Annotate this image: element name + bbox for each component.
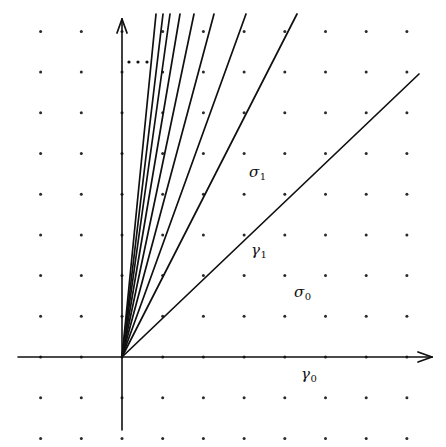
- ray-ellipsis: [127, 60, 148, 63]
- lattice-dot: [202, 396, 205, 399]
- label-sigma-0: σ0: [294, 285, 311, 300]
- lattice-dot: [324, 71, 327, 74]
- ray-2: [122, 14, 163, 357]
- ray-group: [122, 14, 419, 357]
- lattice-dot: [202, 315, 205, 318]
- lattice-dot: [283, 111, 286, 114]
- lattice-dot: [39, 111, 42, 114]
- lattice-dot: [243, 233, 246, 236]
- lattice-dot: [243, 437, 246, 440]
- lattice-dot: [405, 315, 408, 318]
- lattice-dot: [324, 396, 327, 399]
- ray-gamma1: [122, 74, 419, 357]
- lattice-dot: [80, 30, 83, 33]
- axis-group: [18, 19, 432, 430]
- lattice-dot: [365, 437, 368, 440]
- lattice-dot: [39, 152, 42, 155]
- lattice-dot: [324, 437, 327, 440]
- lattice-dot: [283, 193, 286, 196]
- lattice-dot: [283, 274, 286, 277]
- lattice-dot: [365, 30, 368, 33]
- label-base-sigma-0: σ: [294, 283, 304, 301]
- lattice-dot: [202, 152, 205, 155]
- fan-diagram-figure: σ1 γ1 σ0 γ0: [0, 0, 446, 447]
- lattice-dot: [80, 437, 83, 440]
- lattice-dot: [39, 193, 42, 196]
- lattice-dot: [405, 193, 408, 196]
- lattice-dot: [243, 315, 246, 318]
- lattice-dot: [80, 233, 83, 236]
- lattice-dot: [202, 274, 205, 277]
- label-base-gamma-1: γ: [251, 241, 260, 259]
- label-subscript-gamma-1: 1: [260, 249, 266, 260]
- lattice-dot: [405, 396, 408, 399]
- ellipsis-dot: [127, 60, 130, 63]
- lattice-dot: [202, 233, 205, 236]
- lattice-dot: [365, 315, 368, 318]
- lattice-dot: [80, 152, 83, 155]
- lattice-dot: [243, 193, 246, 196]
- lattice-dot: [243, 71, 246, 74]
- lattice-dot: [39, 315, 42, 318]
- lattice-dot: [324, 274, 327, 277]
- lattice-dot: [405, 111, 408, 114]
- lattice-dot: [405, 233, 408, 236]
- lattice-dot: [283, 437, 286, 440]
- label-gamma-0: γ0: [301, 367, 316, 382]
- lattice-dot: [161, 233, 164, 236]
- lattice-dot: [80, 111, 83, 114]
- lattice-dot: [39, 233, 42, 236]
- lattice-dot: [405, 437, 408, 440]
- label-gamma-1: γ1: [251, 243, 266, 258]
- lattice-dot: [39, 274, 42, 277]
- lattice-dot: [243, 274, 246, 277]
- lattice-dot: [39, 71, 42, 74]
- lattice-dot: [161, 396, 164, 399]
- lattice-dot: [243, 152, 246, 155]
- lattice-dot: [283, 233, 286, 236]
- ray-8: [122, 14, 297, 357]
- lattice-dot: [39, 396, 42, 399]
- lattice-dot: [283, 315, 286, 318]
- fan-diagram-canvas: [0, 0, 446, 447]
- lattice-dot: [283, 71, 286, 74]
- lattice-dot: [283, 152, 286, 155]
- label-subscript-sigma-1: 1: [260, 171, 266, 182]
- lattice-dot: [243, 396, 246, 399]
- lattice-dot: [39, 30, 42, 33]
- ellipsis-dot: [136, 60, 139, 63]
- lattice-dot: [121, 437, 124, 440]
- lattice-dot: [324, 152, 327, 155]
- ray-6: [122, 14, 214, 357]
- label-base-gamma-0: γ: [301, 365, 310, 383]
- lattice-dot: [365, 111, 368, 114]
- lattice-dot: [80, 396, 83, 399]
- lattice-dot: [161, 193, 164, 196]
- lattice-dot: [324, 30, 327, 33]
- lattice-dot: [283, 396, 286, 399]
- lattice-dot: [365, 396, 368, 399]
- lattice-dot: [80, 71, 83, 74]
- lattice-dot: [202, 111, 205, 114]
- label-subscript-sigma-0: 0: [305, 291, 311, 302]
- lattice-dot: [365, 152, 368, 155]
- label-subscript-gamma-0: 0: [310, 373, 316, 384]
- lattice-dot: [202, 30, 205, 33]
- lattice-dot: [405, 71, 408, 74]
- ellipsis-dot: [145, 60, 148, 63]
- lattice-dot: [202, 71, 205, 74]
- lattice-dot: [405, 30, 408, 33]
- lattice-dot: [324, 233, 327, 236]
- lattice-dot: [80, 315, 83, 318]
- label-base-sigma-1: σ: [249, 163, 259, 181]
- lattice-dot: [365, 274, 368, 277]
- lattice-dot: [365, 193, 368, 196]
- lattice-dot: [324, 315, 327, 318]
- lattice-dot: [202, 437, 205, 440]
- lattice-dot: [80, 274, 83, 277]
- lattice-dot: [283, 30, 286, 33]
- lattice-dot-group: [39, 30, 408, 440]
- ray-3: [122, 14, 170, 357]
- lattice-dot: [80, 193, 83, 196]
- lattice-dot: [324, 193, 327, 196]
